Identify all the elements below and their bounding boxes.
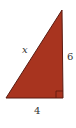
hypotenuse-label: x [22, 44, 28, 55]
triangle-diagram: x 6 4 [0, 0, 76, 128]
vertical-leg-label: 6 [67, 51, 73, 62]
horizontal-leg-label: 4 [34, 105, 40, 116]
right-triangle [6, 10, 63, 98]
